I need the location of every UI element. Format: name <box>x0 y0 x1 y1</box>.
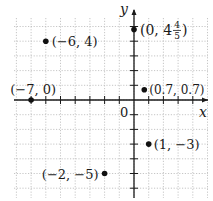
point-marker <box>43 38 49 44</box>
origin-label: 0 <box>120 105 128 120</box>
point-label: (0, 4 <box>140 22 172 38</box>
data-point: (−2, −5) <box>42 167 108 182</box>
point-marker <box>28 97 34 103</box>
point-marker <box>146 141 152 147</box>
data-points: (−6, 4)(0, 445)(−7, 0)(0.7, 0.7)(1, −3)(… <box>10 20 204 181</box>
point-marker <box>131 27 137 33</box>
axis-ticks <box>31 27 193 189</box>
point-marker <box>141 87 147 93</box>
data-point: (1, −3) <box>146 137 200 152</box>
point-marker <box>102 171 108 177</box>
coordinate-plane: x y 0 (−6, 4)(0, 445)(−7, 0)(0.7, 0.7)(1… <box>0 0 213 201</box>
point-label: (1, −3) <box>154 137 200 152</box>
data-point: (−6, 4) <box>43 34 98 49</box>
x-axis-label: x <box>199 104 207 120</box>
fraction-denominator: 5 <box>174 31 180 41</box>
point-label: (−6, 4) <box>52 34 98 49</box>
data-point: (0.7, 0.7) <box>141 83 204 97</box>
point-label: (0.7, 0.7) <box>149 83 204 97</box>
y-axis-label: y <box>119 1 129 17</box>
point-label: (−2, −5) <box>42 167 99 182</box>
data-point: (0, 445) <box>131 20 187 41</box>
point-label-close: ) <box>182 22 187 38</box>
point-label: (−7, 0) <box>10 82 56 97</box>
fraction-numerator: 4 <box>174 20 180 30</box>
